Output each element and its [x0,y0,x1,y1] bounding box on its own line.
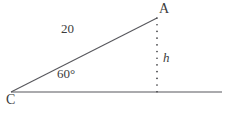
side-length-label: 20 [61,22,74,35]
vertex-label-a: A [159,2,169,16]
vertex-label-c: C [6,93,15,107]
hypotenuse-ca [11,18,157,92]
diagram-canvas [0,0,232,113]
triangle-diagram: A C 20 60° h [0,0,232,113]
height-label: h [163,51,170,64]
angle-label: 60° [57,67,75,80]
